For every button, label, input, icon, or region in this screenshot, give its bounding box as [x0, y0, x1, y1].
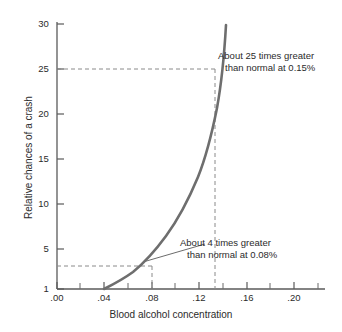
y-tick-label-30: 30: [27, 18, 49, 29]
x-tick-label-004: .04: [89, 292, 119, 303]
x-tick-label-016: .16: [232, 292, 262, 303]
annotation-low-line2: than normal at 0.08%: [180, 249, 277, 261]
x-tick-label-020: .20: [279, 292, 309, 303]
x-tick-label-012: .12: [184, 292, 214, 303]
y-axis-ticks: [57, 24, 64, 289]
annotation-low-line1: About 4 times greater: [180, 237, 271, 248]
x-tick-label-008: .08: [137, 292, 167, 303]
x-tick-label-000: .00: [42, 292, 72, 303]
annotation-high: About 25 times greater than normal at 0.…: [218, 50, 315, 73]
annotation-high-line2: than normal at 0.15%: [218, 62, 315, 74]
annotation-high-line1: About 25 times greater: [218, 50, 314, 61]
annotation-low: About 4 times greater than normal at 0.0…: [180, 237, 277, 260]
chart-figure: 30 25 20 15 10 5 1 .00 .04 .08 .12 .16 .…: [0, 0, 342, 332]
x-axis-title: Blood alcohol concentration: [0, 309, 342, 320]
y-axis-title: Relative chances of a crash: [23, 48, 34, 268]
